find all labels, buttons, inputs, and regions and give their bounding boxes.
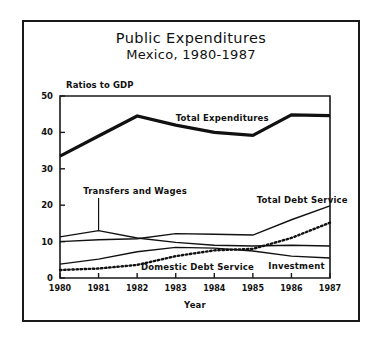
annotation-transfers-and-wages: Transfers and Wages xyxy=(83,186,187,196)
plot-area: 0102030405019801981198219831984198519861… xyxy=(0,0,383,342)
x-tick-label-1985: 1985 xyxy=(242,284,265,293)
x-tick-label-1983: 1983 xyxy=(165,284,187,293)
y-tick-label-40: 40 xyxy=(41,127,53,137)
annotation-total-debt-service: Total Debt Service xyxy=(257,195,348,205)
x-tick-label-1982: 1982 xyxy=(126,284,148,293)
x-tick-label-1981: 1981 xyxy=(87,284,110,293)
x-tick-label-1980: 1980 xyxy=(49,284,72,293)
x-tick-label-1984: 1984 xyxy=(203,284,226,293)
y-tick-label-50: 50 xyxy=(41,91,53,101)
figure-container: Public Expenditures Mexico, 1980-1987 Ra… xyxy=(0,0,383,342)
y-tick-label-0: 0 xyxy=(47,273,53,283)
y-tick-label-20: 20 xyxy=(41,200,53,210)
annotation-domestic-debt-service: Domestic Debt Service xyxy=(141,262,254,272)
annotation-investment: Investment xyxy=(268,261,324,271)
y-tick-label-10: 10 xyxy=(41,237,53,247)
y-tick-label-30: 30 xyxy=(41,164,53,174)
x-tick-label-1986: 1986 xyxy=(280,284,303,293)
annotation-total-expenditures: Total Expenditures xyxy=(176,113,269,123)
series-line-total-debt-service xyxy=(60,206,330,242)
x-tick-label-1987: 1987 xyxy=(319,284,341,293)
